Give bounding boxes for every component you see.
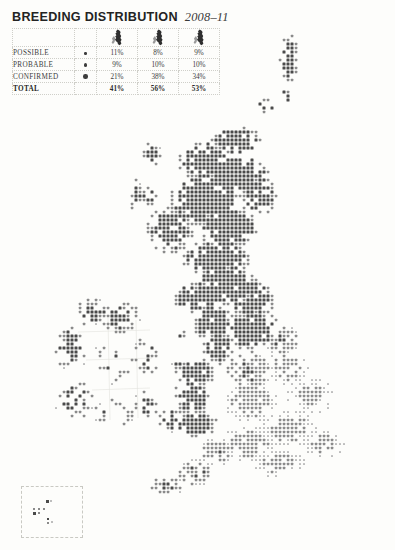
map-dot — [327, 407, 329, 409]
map-dot — [183, 475, 186, 478]
map-dot — [207, 183, 210, 186]
map-dot — [247, 443, 250, 446]
map-dot — [191, 419, 194, 422]
map-dot — [191, 475, 194, 478]
map-dot — [279, 431, 282, 434]
map-dot — [231, 199, 234, 202]
map-dot — [311, 383, 313, 385]
map-dot — [191, 295, 194, 298]
map-dot — [195, 423, 198, 426]
map-dot — [55, 351, 58, 354]
map-dot — [219, 299, 222, 302]
map-dot — [319, 379, 321, 381]
map-dot — [199, 319, 202, 322]
map-dot — [287, 99, 290, 102]
map-dot — [235, 183, 238, 186]
map-dot — [203, 263, 206, 266]
map-dot — [227, 223, 230, 226]
map-dot — [331, 447, 334, 450]
map-dot — [199, 407, 202, 410]
map-dot — [255, 443, 257, 446]
map-dot — [179, 223, 182, 226]
map-dot — [167, 235, 170, 238]
map-dot — [163, 219, 166, 222]
map-dot — [227, 251, 230, 254]
map-dot — [239, 195, 242, 198]
map-dot — [239, 251, 242, 254]
map-dot — [243, 167, 246, 170]
map-dot — [223, 315, 226, 318]
map-dot — [287, 379, 290, 382]
map-dot — [215, 291, 218, 294]
map-dot — [235, 171, 238, 174]
map-dot — [227, 219, 230, 222]
map-dot — [211, 187, 214, 190]
map-dot — [159, 227, 162, 230]
map-dot — [219, 139, 222, 142]
map-dot — [259, 371, 262, 374]
map-dot — [199, 383, 202, 386]
map-dot — [159, 483, 162, 486]
map-dot — [155, 483, 158, 486]
map-dot — [243, 255, 246, 258]
map-dot — [227, 167, 230, 170]
map-dot — [223, 195, 226, 198]
map-dot — [143, 155, 146, 158]
map-dot — [231, 211, 234, 214]
map-dot — [255, 131, 257, 134]
map-dot — [191, 483, 194, 486]
map-dot — [303, 371, 305, 373]
map-dot — [203, 367, 206, 370]
map-dot — [163, 419, 166, 422]
map-dot — [227, 243, 230, 246]
map-dot — [195, 163, 198, 166]
map-dot — [123, 407, 126, 410]
map-dot — [247, 171, 250, 174]
map-dot — [231, 179, 234, 182]
map-dot — [135, 343, 137, 345]
map-dot — [295, 459, 297, 461]
map-dot — [155, 231, 158, 234]
map-dot — [223, 287, 226, 290]
map-dot — [243, 263, 246, 266]
map-dot — [271, 187, 274, 190]
map-dot — [303, 419, 306, 422]
map-dot — [131, 411, 134, 414]
map-dot — [255, 367, 257, 370]
map-dot — [203, 383, 206, 386]
map-dot — [199, 479, 202, 482]
map-dot — [215, 251, 218, 254]
map-dot — [167, 491, 170, 494]
map-dot — [219, 135, 222, 138]
map-dot — [215, 287, 218, 290]
map-dot — [231, 167, 234, 170]
map-dot — [303, 391, 306, 394]
map-dot — [235, 303, 238, 306]
map-dot — [187, 395, 190, 398]
map-dot — [183, 219, 186, 222]
map-dot — [255, 303, 258, 306]
map-dot — [283, 343, 286, 346]
map-dot — [211, 195, 214, 198]
map-dot — [271, 375, 273, 377]
map-dot — [243, 271, 246, 274]
map-dot — [79, 411, 82, 414]
map-dot — [271, 207, 274, 210]
map-dot — [83, 355, 86, 358]
inset-map-dot — [47, 522, 49, 524]
map-dot — [259, 459, 261, 461]
map-dot — [287, 419, 290, 422]
map-dot — [243, 331, 246, 334]
map-dot — [263, 287, 266, 290]
map-dot — [139, 343, 142, 346]
map-dot — [95, 323, 97, 325]
map-dot — [223, 187, 226, 190]
map-dot — [227, 279, 230, 282]
map-dot — [287, 91, 290, 94]
map-dot — [259, 375, 262, 378]
map-dot — [207, 199, 210, 202]
map-dot — [103, 347, 106, 350]
map-dot — [307, 439, 309, 441]
map-dot — [263, 107, 266, 110]
map-dot — [263, 387, 265, 389]
